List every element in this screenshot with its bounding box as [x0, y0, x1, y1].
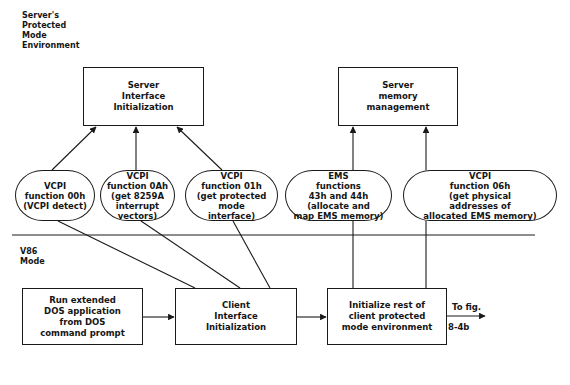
- vcpi-0ah-label: VCPI function 0Ah (get 8259A interrupt v…: [107, 171, 168, 221]
- vcpi-01h-node: VCPI function 01h (get protected mode in…: [185, 170, 278, 221]
- server-memory-management-box: Server memory management: [338, 67, 458, 126]
- vcpi-06h-label: VCPI function 06h (get physical addresse…: [423, 171, 536, 221]
- client-interface-init-box: Client Interface Initialization: [175, 288, 297, 345]
- client-interface-init-label: Client Interface Initialization: [206, 300, 266, 333]
- server-interface-init-box: Server Interface Initialization: [83, 67, 204, 126]
- vcpi-00h-label: VCPI function 00h (VCPI detect): [23, 181, 87, 211]
- vcpi-00h-node: VCPI function 00h (VCPI detect): [15, 170, 95, 221]
- continuation-label-line1: To fig.: [452, 302, 481, 312]
- vcpi-06h-node: VCPI function 06h (get physical addresse…: [403, 170, 557, 221]
- init-rest-label: Initialize rest of client protected mode…: [342, 300, 433, 333]
- v86-mode-region-label: V86 Mode: [20, 247, 45, 267]
- ems-43h-44h-label: EMS functions 43h and 44h (allocate and …: [294, 171, 384, 221]
- server-memory-management-label: Server memory management: [367, 80, 430, 113]
- continuation-label-line2: 8-4b: [448, 322, 469, 332]
- init-rest-box: Initialize rest of client protected mode…: [327, 288, 447, 345]
- vcpi-01h-label: VCPI function 01h (get protected mode in…: [197, 171, 267, 221]
- run-app-box: Run extended DOS application from DOS co…: [22, 288, 143, 345]
- server-interface-init-label: Server Interface Initialization: [113, 80, 173, 113]
- vcpi-0ah-node: VCPI function 0Ah (get 8259A interrupt v…: [100, 170, 175, 221]
- ems-43h-44h-node: EMS functions 43h and 44h (allocate and …: [285, 170, 392, 221]
- protected-mode-region-label: Server's Protected Mode Environment: [22, 11, 80, 51]
- run-app-label: Run extended DOS application from DOS co…: [40, 295, 125, 339]
